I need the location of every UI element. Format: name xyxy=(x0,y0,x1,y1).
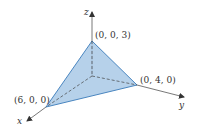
vertex-label-x-intercept: (6, 0, 0) xyxy=(14,95,50,105)
vertex-label-y-intercept: (0, 4, 0) xyxy=(140,75,176,85)
vertex-label-z-intercept: (0, 0, 3) xyxy=(95,30,131,40)
tetrahedron-diagram: z y x (0, 0, 3) (0, 4, 0) (6, 0, 0) xyxy=(0,0,199,137)
x-axis xyxy=(27,107,46,121)
y-axis xyxy=(137,85,184,97)
x-axis-label: x xyxy=(17,116,22,126)
plane-face xyxy=(46,41,137,107)
z-axis-label: z xyxy=(83,7,89,17)
y-axis-label: y xyxy=(178,100,185,110)
